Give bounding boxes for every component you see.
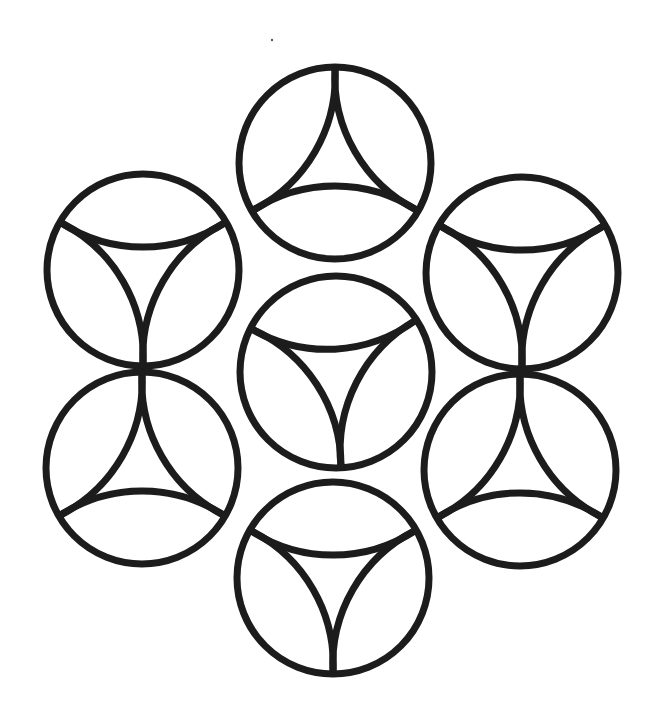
speck-mark <box>271 39 273 41</box>
motif-top <box>239 67 431 259</box>
motif-upper-left <box>47 174 239 366</box>
motif-upper-right <box>426 177 618 369</box>
circles-triangles-diagram <box>0 0 659 725</box>
motif-bottom <box>237 482 429 674</box>
motif-lower-right <box>424 374 616 566</box>
motif-lower-left <box>46 372 238 564</box>
motif-group <box>46 67 618 674</box>
motif-center <box>240 276 432 468</box>
